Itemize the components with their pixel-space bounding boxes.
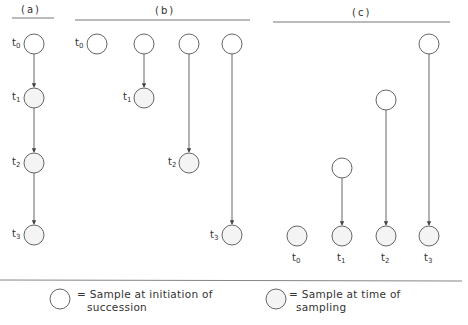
svg-text:t0: t0 bbox=[292, 252, 300, 265]
svg-text:t0: t0 bbox=[12, 37, 20, 50]
panel-a bbox=[24, 34, 44, 245]
node-sampling bbox=[24, 225, 44, 245]
panel-b-label: (b) bbox=[155, 5, 175, 16]
node-sampling bbox=[179, 153, 199, 173]
panel-b-time-labels: t0 t1 t2 t3 bbox=[75, 37, 218, 242]
svg-text:t3: t3 bbox=[424, 252, 432, 265]
panel-a-label: (a) bbox=[21, 4, 41, 15]
node-sampling bbox=[419, 226, 439, 246]
svg-text:t3: t3 bbox=[12, 228, 20, 241]
svg-text:t0: t0 bbox=[75, 37, 83, 50]
panel-a-header: (a) bbox=[12, 4, 54, 18]
legend-sampling: = Sample at time of sampling bbox=[289, 288, 401, 314]
panel-a-time-labels: t0 t1 t2 t3 bbox=[12, 37, 20, 241]
node-initiation bbox=[134, 34, 154, 54]
node-sampling bbox=[222, 225, 242, 245]
svg-text:t2: t2 bbox=[12, 156, 20, 169]
legend-sampling-line1: = Sample at time of bbox=[289, 288, 401, 301]
legend-initiation: = Sample at initiation of succession bbox=[77, 288, 213, 314]
node-initiation bbox=[376, 90, 396, 110]
node-sampling bbox=[24, 88, 44, 108]
legend-initiation-line2: succession bbox=[77, 301, 213, 314]
svg-text:t1: t1 bbox=[337, 252, 345, 265]
svg-text:t2: t2 bbox=[381, 252, 389, 265]
legend-sampling-icon bbox=[266, 289, 286, 309]
panel-c-label: (c) bbox=[352, 7, 371, 18]
svg-text:t2: t2 bbox=[168, 156, 176, 169]
svg-text:t1: t1 bbox=[123, 91, 131, 104]
succession-diagram: (a) (b) (c) t0 t1 t2 t3 t bbox=[0, 0, 468, 325]
legend-initiation-icon bbox=[50, 289, 70, 309]
svg-text:t1: t1 bbox=[12, 91, 20, 104]
node-initiation bbox=[87, 34, 107, 54]
panel-c bbox=[287, 34, 439, 246]
node-sampling bbox=[287, 226, 307, 246]
node-initiation bbox=[419, 34, 439, 54]
node-initiation bbox=[222, 34, 242, 54]
node-initiation bbox=[332, 158, 352, 178]
legend-sampling-line2: sampling bbox=[289, 301, 401, 314]
node-sampling bbox=[24, 153, 44, 173]
node-sampling bbox=[134, 88, 154, 108]
node-sampling bbox=[376, 226, 396, 246]
panel-b bbox=[87, 34, 242, 245]
panel-c-time-labels: t0 t1 t2 t3 bbox=[292, 252, 432, 265]
svg-text:t3: t3 bbox=[210, 229, 218, 242]
node-initiation bbox=[24, 34, 44, 54]
legend-separator bbox=[0, 280, 462, 281]
legend-initiation-line1: = Sample at initiation of bbox=[77, 288, 213, 301]
node-sampling bbox=[332, 226, 352, 246]
node-initiation bbox=[179, 34, 199, 54]
panel-c-header: (c) bbox=[273, 7, 450, 22]
panel-b-header: (b) bbox=[75, 5, 250, 20]
